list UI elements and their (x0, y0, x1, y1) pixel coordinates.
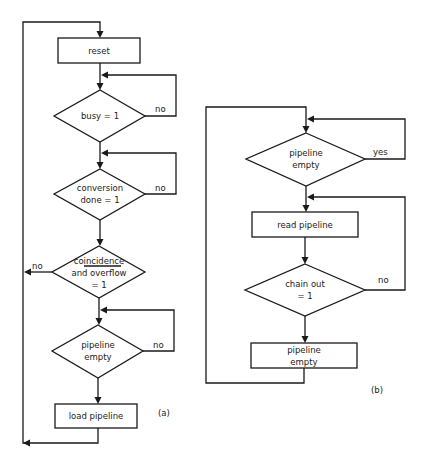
arrowhead (24, 269, 31, 276)
arrowhead (302, 336, 309, 343)
busy-label: busy = 1 (81, 111, 119, 121)
arrowhead (97, 162, 104, 169)
chain-out-decision (245, 264, 365, 316)
pipeline-empty-check-line2: empty (292, 160, 319, 170)
caption-a: (a) (158, 408, 170, 418)
conversion-label-line2: done = 1 (80, 195, 119, 205)
coincidence-label-line3: = 1 (91, 280, 106, 290)
arrowhead (302, 257, 309, 264)
coincidence-label-line2: and overflow (71, 268, 126, 278)
conversion-label-line1: conversion (77, 183, 123, 193)
chain-out-label-line1: chain out (285, 279, 325, 289)
arrowhead (101, 150, 108, 157)
busy-no-label: no (155, 104, 166, 114)
arrowhead (95, 397, 102, 404)
coincidence-no-label: no (32, 261, 43, 271)
arrowhead (303, 205, 310, 212)
chain-out-no-label: no (378, 275, 389, 285)
flowchart-b: yes pipeline empty no read pipeline chai… (206, 107, 405, 395)
arrowhead (101, 72, 108, 79)
pipeline-empty-label-line2: empty (84, 352, 111, 362)
arrowhead (97, 239, 104, 246)
outer-loop-a (23, 22, 100, 443)
pipeline-empty-check-line1: pipeline (289, 148, 323, 158)
arrowhead (96, 318, 103, 325)
caption-b: (b) (371, 385, 383, 395)
pipeline-empty-no-label: no (153, 340, 164, 350)
arrowhead (307, 194, 314, 201)
read-pipeline-label: read pipeline (277, 220, 333, 230)
flowchart-canvas: reset no busy = 1 no conversion done = 1… (0, 0, 425, 460)
arrowhead (23, 440, 30, 447)
pipeline-empty-set-line1: pipeline (287, 345, 321, 355)
arrowhead (307, 116, 314, 123)
coincidence-label-line1: coincidence (74, 256, 125, 266)
flowchart-a: reset no busy = 1 no conversion done = 1… (23, 22, 176, 447)
arrowhead (303, 126, 310, 133)
arrowhead (97, 83, 104, 90)
chain-out-label-line2: = 1 (297, 291, 312, 301)
arrowhead (97, 31, 104, 38)
reset-label: reset (88, 46, 110, 56)
pipeline-empty-set-line2: empty (290, 357, 317, 367)
pipeline-empty-label-line1: pipeline (81, 340, 115, 350)
conversion-no-label: no (155, 183, 166, 193)
pipeline-empty-yes-label: yes (373, 147, 388, 157)
arrowhead (100, 307, 107, 314)
load-pipeline-label: load pipeline (69, 411, 124, 421)
